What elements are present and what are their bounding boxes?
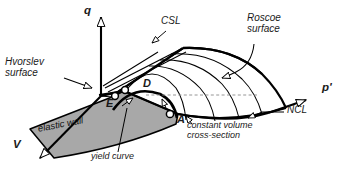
hvorslev-surface-leader [64, 78, 92, 88]
hvorslev-surface-label-line2: surface [5, 68, 44, 79]
state-point-D-marker [122, 87, 129, 94]
roscoe-surface-label: Roscoe surface [247, 13, 281, 35]
state-point-D-label: D [143, 78, 151, 90]
figure-canvas: q p' V D E A CSL Roscoe surface Hvorslev… [0, 0, 350, 182]
roscoe-surface-leader [222, 44, 254, 78]
axis-label-V: V [13, 138, 21, 150]
ncl-label: NCL [287, 105, 307, 116]
state-point-A-marker [166, 110, 173, 117]
state-point-A-label: A [177, 114, 185, 126]
csl-leader [152, 31, 166, 43]
state-boundary-surface-diagram [0, 0, 350, 182]
axis-label-q: q [84, 4, 91, 16]
constant-volume-cross-section-label: constant volume cross-section [187, 121, 253, 140]
yield-curve-label: yield curve [91, 152, 134, 162]
hvorslev-surface-label: Hvorslev surface [5, 57, 44, 79]
axis-label-p-prime: p' [322, 81, 332, 93]
roscoe-surface-label-line2: surface [247, 24, 281, 35]
state-point-E-label: E [106, 98, 113, 110]
csl-label: CSL [161, 16, 180, 27]
normal-compression-line [178, 108, 286, 118]
constant-volume-label-line2: cross-section [187, 131, 253, 141]
